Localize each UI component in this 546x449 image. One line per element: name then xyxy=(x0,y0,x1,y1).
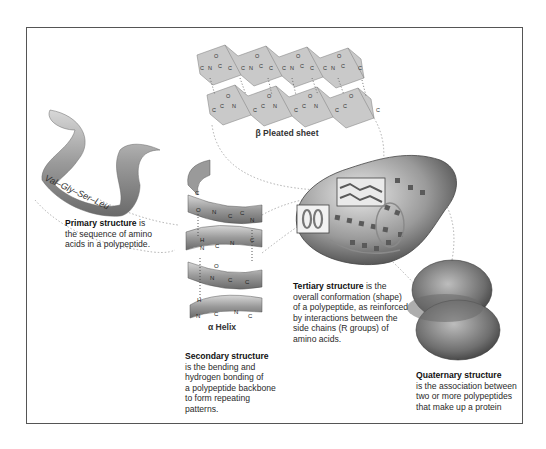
beta-sheet-drawing: CNOCC CNOCC CNOCC CNOCC CCON CCON CCON C… xyxy=(197,45,380,128)
svg-text:C: C xyxy=(335,107,339,113)
svg-text:C: C xyxy=(310,65,314,71)
quaternary-structure-caption: Quaternary structure is the association … xyxy=(416,370,517,412)
tertiary-structure-drawing xyxy=(296,155,456,264)
svg-text:C: C xyxy=(323,65,327,71)
svg-text:C: C xyxy=(253,107,257,113)
svg-text:C: C xyxy=(294,107,298,113)
svg-text:C: C xyxy=(343,103,347,109)
svg-text:C: C xyxy=(358,65,362,71)
svg-text:C: C xyxy=(248,313,253,319)
svg-text:C: C xyxy=(228,65,232,71)
alpha-helix-drawing: CNCCN NCNC NCC NCNC OHOH xyxy=(186,160,262,319)
svg-text:O: O xyxy=(296,53,301,59)
svg-text:N: N xyxy=(230,240,234,246)
svg-text:C: C xyxy=(250,237,255,243)
svg-text:C: C xyxy=(261,103,265,109)
svg-text:H: H xyxy=(197,297,201,303)
svg-text:O: O xyxy=(308,93,313,99)
svg-text:C: C xyxy=(302,103,306,109)
svg-text:N: N xyxy=(314,103,318,109)
svg-text:N: N xyxy=(196,313,200,319)
svg-text:C: C xyxy=(200,65,204,71)
svg-text:N: N xyxy=(249,65,253,71)
svg-text:C: C xyxy=(228,213,233,219)
svg-text:N: N xyxy=(234,309,238,315)
svg-text:C: C xyxy=(341,63,345,69)
svg-text:O: O xyxy=(214,53,219,59)
svg-text:O: O xyxy=(214,263,219,269)
svg-text:H: H xyxy=(200,237,204,243)
svg-text:N: N xyxy=(212,209,216,215)
secondary-structure-caption: Secondary structure is the bending and h… xyxy=(185,351,276,415)
svg-text:N: N xyxy=(273,103,277,109)
primary-ribbon-drawing: Val–Gly–Ser–Leu xyxy=(42,110,160,216)
svg-text:O: O xyxy=(349,93,354,99)
svg-text:C: C xyxy=(240,210,245,216)
svg-text:C: C xyxy=(195,190,200,196)
svg-text:N: N xyxy=(331,65,335,71)
svg-text:O: O xyxy=(337,53,342,59)
svg-text:N: N xyxy=(210,275,214,281)
svg-text:O: O xyxy=(196,207,201,213)
tertiary-structure-title: Tertiary structure xyxy=(293,281,364,291)
svg-text:N: N xyxy=(232,103,236,109)
svg-text:O: O xyxy=(226,93,231,99)
svg-text:C: C xyxy=(218,63,222,69)
quaternary-structure-title: Quaternary structure xyxy=(416,370,502,380)
svg-text:N: N xyxy=(200,245,204,251)
secondary-structure-title: Secondary structure xyxy=(185,351,269,361)
svg-text:C: C xyxy=(376,107,380,113)
svg-text:C: C xyxy=(215,243,220,249)
primary-structure-title: Primary structure xyxy=(65,218,137,228)
svg-text:C: C xyxy=(212,107,216,113)
svg-text:C: C xyxy=(214,311,219,317)
svg-text:C: C xyxy=(282,65,286,71)
svg-text:C: C xyxy=(300,63,304,69)
svg-text:N: N xyxy=(250,217,254,223)
svg-text:C: C xyxy=(241,65,245,71)
svg-text:O: O xyxy=(267,93,272,99)
svg-text:C: C xyxy=(228,277,233,283)
svg-text:N: N xyxy=(208,65,212,71)
svg-text:O: O xyxy=(255,53,260,59)
svg-text:N: N xyxy=(290,65,294,71)
primary-structure-caption: Primary structure is the sequence of ami… xyxy=(65,218,152,250)
beta-sheet-label: β Pleated sheet xyxy=(255,128,318,138)
svg-text:C: C xyxy=(220,103,224,109)
tertiary-structure-caption: Tertiary structure is the overall confor… xyxy=(293,281,408,345)
quaternary-structure-drawing xyxy=(407,260,500,360)
svg-text:C: C xyxy=(245,279,250,285)
svg-text:C: C xyxy=(259,63,263,69)
svg-text:C: C xyxy=(269,65,273,71)
alpha-helix-label: α Helix xyxy=(208,322,236,332)
